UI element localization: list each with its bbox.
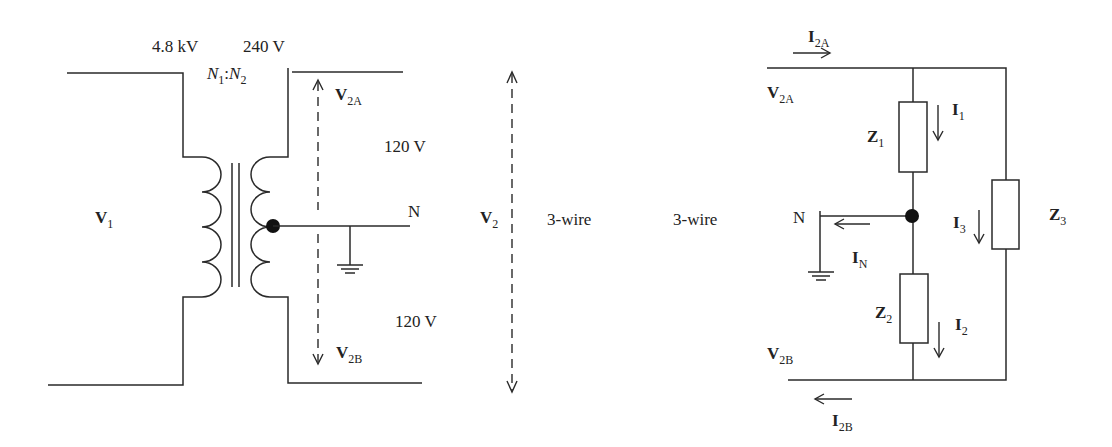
load-v2b-label: V2B (767, 344, 793, 367)
v2b-arrow-icon (313, 234, 323, 364)
line-a-bus (767, 68, 1006, 180)
z3-label: Z3 (1049, 205, 1066, 228)
ground-icon (337, 226, 363, 273)
v2a-label: V2A (335, 85, 362, 108)
three-wire-label-left: 3-wire (547, 210, 591, 229)
turns-ratio-label: N1:N2 (206, 64, 246, 87)
i2b-arrow-icon (815, 394, 852, 404)
secondary-voltage-label: 240 V (243, 37, 285, 56)
i2-arrow-icon (934, 322, 944, 357)
three-wire-label-right: 3-wire (673, 210, 717, 229)
z1-label: Z1 (867, 127, 884, 150)
primary-bottom-wire (48, 297, 202, 385)
v2-double-arrow-icon (507, 72, 517, 392)
i2-label: I2 (955, 315, 968, 338)
impedance-z2-icon (900, 274, 928, 343)
lower-half-voltage-label: 120 V (395, 312, 437, 331)
load-ground-icon (808, 211, 834, 280)
load-circuit: 3-wire (673, 27, 1066, 434)
primary-coil-icon (202, 157, 221, 297)
z2-label: Z2 (875, 303, 892, 326)
load-v2a-label: V2A (767, 83, 794, 106)
v2b-label: V2B (336, 343, 362, 366)
i3-arrow-icon (974, 210, 984, 243)
impedance-z1-icon (899, 102, 927, 172)
secondary-bottom-wire (270, 297, 422, 383)
neutral-label: N (408, 202, 420, 221)
in-arrow-icon (835, 219, 870, 229)
split-phase-transformer-diagram: 4.8 kV 240 V N1:N2 V1 V2A V2B 120 V 120 … (0, 0, 1112, 447)
v1-label: V1 (95, 208, 113, 231)
load-neutral-node (905, 209, 919, 223)
transformer-circuit: 4.8 kV 240 V N1:N2 V1 V2A V2B 120 V 120 … (48, 37, 591, 392)
load-neutral-label: N (793, 208, 805, 227)
i2a-label: I2A (808, 27, 830, 50)
i1-arrow-icon (933, 105, 943, 140)
primary-top-wire (67, 73, 202, 157)
secondary-top-wire (270, 68, 288, 157)
upper-half-voltage-label: 120 V (384, 137, 426, 156)
v2-label: V2 (480, 208, 498, 231)
v2a-arrow-icon (313, 80, 323, 210)
i1-label: I1 (952, 100, 965, 123)
impedance-z3-icon (992, 180, 1019, 249)
i3-label: I3 (953, 213, 966, 236)
in-label: IN (852, 248, 868, 271)
primary-voltage-label: 4.8 kV (152, 37, 199, 56)
i2b-label: I2B (832, 411, 853, 434)
